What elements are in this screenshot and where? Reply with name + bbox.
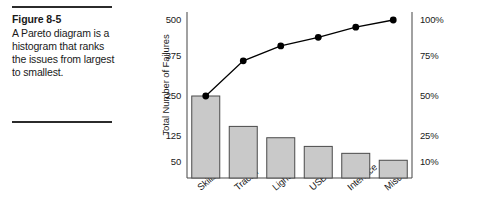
plot-area <box>140 0 481 222</box>
bar-usb <box>304 146 332 178</box>
caption-top-rule <box>12 6 112 8</box>
cumulative-line <box>206 20 394 96</box>
bar-tractor <box>229 126 257 178</box>
figure-caption-block: Figure 8-5 A Pareto diagram is a histogr… <box>12 6 116 79</box>
bar-misc <box>379 160 407 178</box>
cumulative-point-interface <box>352 24 359 31</box>
bar-light <box>267 138 295 178</box>
cumulative-point-light <box>277 43 284 50</box>
pareto-chart: Total Number of Failures 50125250375500 … <box>140 0 481 222</box>
bar-skills <box>192 96 220 178</box>
caption-bottom-rule <box>12 121 112 123</box>
cumulative-point-tractor <box>240 57 247 64</box>
figure-label: Figure 8-5 <box>12 13 116 26</box>
bar-interface <box>342 153 370 178</box>
cumulative-point-skills <box>202 93 209 100</box>
figure-root: Figure 8-5 A Pareto diagram is a histogr… <box>0 0 481 222</box>
figure-caption-text: A Pareto diagram is a histogram that ran… <box>12 27 116 80</box>
cumulative-point-misc <box>390 17 397 24</box>
cumulative-point-usb <box>315 34 322 41</box>
